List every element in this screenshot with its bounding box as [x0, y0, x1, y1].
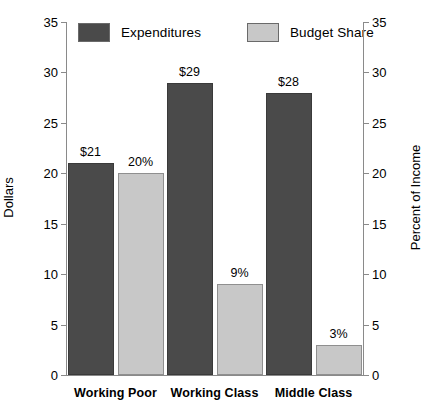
- left-axis-title: Dollars: [1, 153, 16, 243]
- right-axis-tick: [364, 72, 369, 73]
- bar-budget-share-working-class: [217, 284, 263, 375]
- left-axis-tick-label: 25: [22, 117, 58, 130]
- right-axis-tick: [364, 22, 369, 23]
- category-label-working-poor: Working Poor: [60, 386, 171, 400]
- right-axis-tick-label: 20: [372, 167, 408, 180]
- bar-expenditures-working-poor: [68, 163, 114, 375]
- right-axis-tick-label: 35: [372, 16, 408, 29]
- right-axis-tick-label: 10: [372, 268, 408, 281]
- right-axis-tick: [364, 274, 369, 275]
- left-axis-tick-label: 5: [22, 319, 58, 332]
- bar-expenditures-working-class: [167, 83, 213, 375]
- right-axis-tick: [364, 375, 369, 376]
- left-axis-tick-label: 35: [22, 16, 58, 29]
- left-axis-tick-label: 0: [22, 369, 58, 382]
- category-label-working-class: Working Class: [159, 386, 270, 400]
- right-axis-tick: [364, 173, 369, 174]
- right-axis-tick: [364, 224, 369, 225]
- left-axis-tick-label: 10: [22, 268, 58, 281]
- left-axis-tick-label: 15: [22, 218, 58, 231]
- bar-budget-share-middle-class: [316, 345, 362, 375]
- right-axis-tick-label: 15: [372, 218, 408, 231]
- right-axis-tick-label: 30: [372, 66, 408, 79]
- bar-value-label: 20%: [111, 156, 171, 169]
- x-axis-line: [66, 375, 364, 376]
- plot-area: $2120%$299%$283%: [66, 22, 363, 375]
- right-axis-tick: [364, 123, 369, 124]
- left-axis-tick-label: 30: [22, 66, 58, 79]
- bar-value-label: $29: [160, 66, 220, 79]
- bar-budget-share-working-poor: [118, 173, 164, 375]
- right-axis-tick-label: 25: [372, 117, 408, 130]
- right-axis-tick-label: 0: [372, 369, 408, 382]
- left-axis-tick-label: 20: [22, 167, 58, 180]
- right-axis-line: [363, 22, 364, 375]
- category-label-middle-class: Middle Class: [258, 386, 369, 400]
- right-axis-tick: [364, 325, 369, 326]
- bar-expenditures-middle-class: [266, 93, 312, 375]
- right-axis-title: Percent of Income: [408, 133, 423, 263]
- bar-value-label: $28: [259, 76, 319, 89]
- right-axis-tick-label: 5: [372, 319, 408, 332]
- bar-value-label: 3%: [309, 328, 369, 341]
- bar-value-label: 9%: [210, 267, 270, 280]
